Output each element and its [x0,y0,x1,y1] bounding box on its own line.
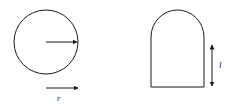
arch-figure: l [151,10,222,87]
height-label: l [219,60,222,70]
geometry-diagram: r l [0,0,235,105]
radius-label: r [57,93,61,103]
arch-outline [151,10,204,87]
radius-legend: r [46,88,78,103]
circle-figure [14,10,78,74]
